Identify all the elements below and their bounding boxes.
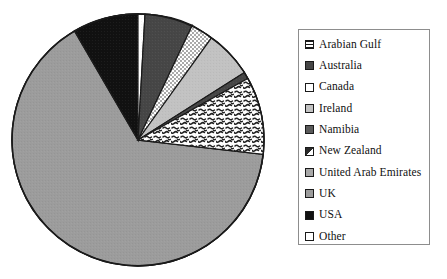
legend-label: UK	[319, 188, 336, 200]
swatch-light-gray-icon	[305, 104, 314, 113]
legend-item-new-zealand[interactable]: New Zealand	[305, 140, 429, 161]
pie-chart-svg	[0, 0, 292, 279]
swatch-dark-gray-icon	[305, 61, 314, 70]
legend: Arabian Gulf Australia Canada Ireland Na…	[298, 29, 430, 245]
swatch-black-icon	[305, 211, 314, 220]
swatch-white-icon	[305, 232, 314, 241]
swatch-medium-gray-icon	[305, 189, 314, 198]
legend-label: Other	[319, 231, 346, 243]
pie-chart-area	[0, 0, 292, 279]
legend-label: United Arab Emirates	[319, 167, 421, 179]
swatch-dark-gray-icon	[305, 125, 314, 134]
swatch-diagonal-split-icon	[305, 147, 314, 156]
legend-item-other[interactable]: Other	[305, 226, 429, 247]
legend-label: New Zealand	[319, 145, 382, 157]
legend-label: Canada	[319, 81, 354, 93]
legend-item-uk[interactable]: UK	[305, 183, 429, 204]
legend-item-ireland[interactable]: Ireland	[305, 98, 429, 119]
pie-chart-figure: Arabian Gulf Australia Canada Ireland Na…	[0, 0, 447, 279]
swatch-medium-gray-icon	[305, 168, 314, 177]
legend-item-usa[interactable]: USA	[305, 204, 429, 225]
swatch-horizontal-lines-icon	[305, 40, 314, 49]
legend-label: Ireland	[319, 103, 352, 115]
legend-item-namibia[interactable]: Namibia	[305, 119, 429, 140]
legend-label: Arabian Gulf	[319, 39, 381, 51]
legend-label: Namibia	[319, 124, 359, 136]
legend-item-australia[interactable]: Australia	[305, 55, 429, 76]
legend-label: USA	[319, 209, 342, 221]
legend-label: Australia	[319, 60, 362, 72]
legend-item-united-arab-emirates[interactable]: United Arab Emirates	[305, 162, 429, 183]
legend-item-canada[interactable]: Canada	[305, 77, 429, 98]
legend-item-arabian-gulf[interactable]: Arabian Gulf	[305, 34, 429, 55]
swatch-white-icon	[305, 83, 314, 92]
